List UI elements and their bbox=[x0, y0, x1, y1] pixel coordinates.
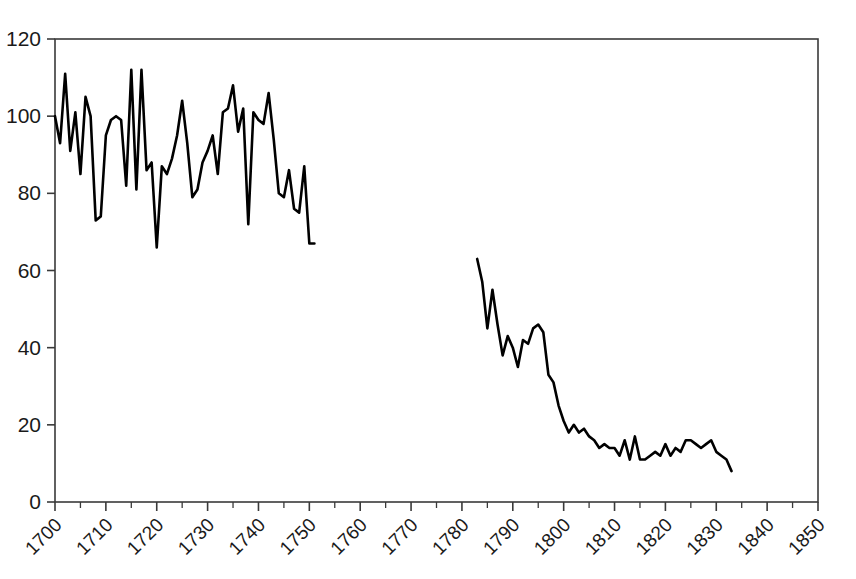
x-tick-label-1700: 1700 bbox=[21, 514, 66, 559]
x-tick-label-1750: 1750 bbox=[275, 514, 320, 559]
y-tick-label-60: 60 bbox=[18, 259, 41, 282]
y-tick-label-40: 40 bbox=[18, 336, 41, 359]
y-axis-tick-labels: 020406080100120 bbox=[6, 27, 41, 513]
x-tick-label-1770: 1770 bbox=[377, 514, 422, 559]
x-tick-label-1810: 1810 bbox=[581, 514, 626, 559]
y-tick-label-20: 20 bbox=[18, 413, 41, 436]
x-tick-label-1830: 1830 bbox=[682, 514, 727, 559]
x-tick-label-1740: 1740 bbox=[225, 514, 270, 559]
y-tick-label-120: 120 bbox=[6, 27, 41, 50]
y-tick-label-80: 80 bbox=[18, 181, 41, 204]
x-tick-label-1800: 1800 bbox=[530, 514, 575, 559]
line-chart-canvas: 020406080100120 170017101720173017401750… bbox=[0, 0, 856, 579]
x-tick-label-1780: 1780 bbox=[428, 514, 473, 559]
x-tick-label-1850: 1850 bbox=[784, 514, 829, 559]
x-tick-label-1820: 1820 bbox=[631, 514, 676, 559]
x-tick-label-1790: 1790 bbox=[479, 514, 524, 559]
y-tick-label-100: 100 bbox=[6, 104, 41, 127]
plot-frame bbox=[55, 39, 818, 502]
x-tick-label-1720: 1720 bbox=[123, 514, 168, 559]
y-tick-label-0: 0 bbox=[29, 490, 41, 513]
x-tick-label-1840: 1840 bbox=[733, 514, 778, 559]
x-tick-label-1710: 1710 bbox=[72, 514, 117, 559]
x-axis-minor-ticks bbox=[80, 502, 792, 508]
x-tick-label-1730: 1730 bbox=[174, 514, 219, 559]
x-axis-tick-labels: 1700171017201730174017501760177017801790… bbox=[21, 514, 829, 559]
chart-figure: 020406080100120 170017101720173017401750… bbox=[0, 0, 856, 579]
x-tick-label-1760: 1760 bbox=[326, 514, 371, 559]
y-axis-ticks bbox=[47, 39, 55, 502]
